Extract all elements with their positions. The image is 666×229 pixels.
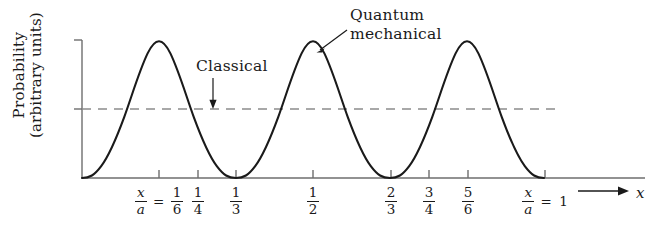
fraction-1-2-denominator: 2 bbox=[307, 202, 320, 217]
x-tick-label-1-4: 1 4 bbox=[183, 186, 213, 216]
annotation-quantum-mechanical: Quantum mechanical bbox=[350, 6, 442, 44]
fraction-3-4-numerator: 3 bbox=[423, 186, 436, 202]
fraction-1-3-numerator: 1 bbox=[230, 186, 243, 202]
annotation-quantum-line1: Quantum bbox=[350, 6, 442, 25]
fraction-2-3-denominator: 3 bbox=[385, 202, 398, 217]
x-tick-label-1-3: 1 3 bbox=[221, 186, 251, 216]
classical-leader-arrow bbox=[209, 78, 216, 109]
fraction-1-2: 1 2 bbox=[307, 186, 320, 216]
fraction-1-3-denominator: 3 bbox=[230, 202, 243, 217]
equals-sign: = bbox=[151, 193, 166, 209]
fraction-5-6-numerator: 5 bbox=[462, 186, 475, 202]
x-axis-ticks bbox=[159, 170, 545, 178]
fraction-1-3: 1 3 bbox=[230, 186, 243, 216]
fraction-1-6-denominator: 6 bbox=[171, 202, 184, 217]
fraction-5-6: 5 6 bbox=[462, 186, 475, 216]
equals-sign-end: = bbox=[539, 193, 554, 209]
x-axis-name-label: x bbox=[636, 184, 644, 202]
fraction-2-3: 2 3 bbox=[385, 186, 398, 216]
fraction-5-6-denominator: 6 bbox=[462, 202, 475, 217]
annotation-quantum-line2: mechanical bbox=[350, 25, 442, 44]
quantum-leader-arrow bbox=[317, 30, 348, 53]
fraction-1-6-numerator: 1 bbox=[171, 186, 184, 202]
fraction-2-3-numerator: 2 bbox=[385, 186, 398, 202]
x-over-a-fraction-end: x a bbox=[522, 186, 534, 216]
x-over-a-end-numerator: x bbox=[522, 186, 534, 202]
x-tick-label-5-6: 5 6 bbox=[453, 186, 483, 216]
fraction-1-4: 1 4 bbox=[192, 186, 205, 216]
probability-distribution-figure: Probability (arbitrary units) bbox=[0, 0, 666, 229]
fraction-1-6: 1 6 bbox=[171, 186, 184, 216]
x-tick-label-1: x a = 1 bbox=[501, 186, 589, 216]
x-tick-label-2-3: 2 3 bbox=[376, 186, 406, 216]
x-over-a-denominator: a bbox=[135, 202, 147, 217]
fraction-1-4-numerator: 1 bbox=[192, 186, 205, 202]
fraction-1-4-denominator: 4 bbox=[192, 202, 205, 217]
value-one: 1 bbox=[558, 193, 568, 209]
x-over-a-numerator: x bbox=[135, 186, 147, 202]
x-tick-label-3-4: 3 4 bbox=[414, 186, 444, 216]
x-over-a-end-denominator: a bbox=[522, 202, 534, 217]
x-over-a-fraction: x a bbox=[135, 186, 147, 216]
fraction-1-2-numerator: 1 bbox=[307, 186, 320, 202]
fraction-3-4: 3 4 bbox=[423, 186, 436, 216]
fraction-3-4-denominator: 4 bbox=[423, 202, 436, 217]
x-tick-label-1-2: 1 2 bbox=[298, 186, 328, 216]
annotation-classical: Classical bbox=[196, 57, 268, 75]
